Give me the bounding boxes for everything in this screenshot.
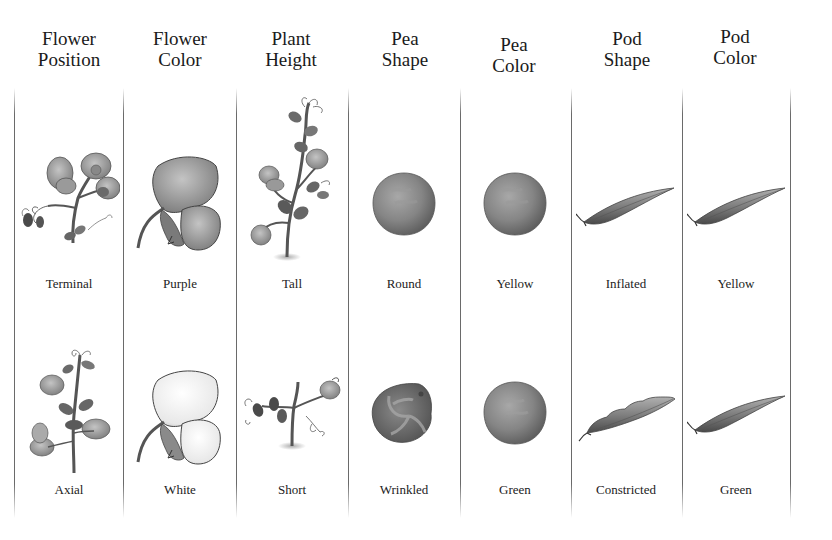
trait-label-yellow-pod: Yellow (681, 276, 791, 292)
header-line: Pod (572, 28, 682, 49)
yellow-pod-illustration (687, 186, 789, 230)
constricted-pod-illustration (577, 393, 679, 443)
trait-label-green-pod: Green (681, 482, 791, 498)
trait-label-tall: Tall (237, 276, 347, 292)
tall-plant-illustration (245, 95, 345, 265)
header-plant-height: Plant Height (236, 28, 346, 70)
trait-label-yellow-pea: Yellow (460, 276, 570, 292)
header-line: Flower (125, 28, 235, 49)
header-line: Flower (14, 28, 124, 49)
white-flower-illustration (128, 368, 230, 468)
header-pod-shape: Pod Shape (572, 28, 682, 70)
header-line: Color (680, 47, 790, 68)
column-divider (123, 88, 124, 518)
header-pea-color: Pea Color (459, 34, 569, 76)
trait-label-wrinkled: Wrinkled (349, 482, 459, 498)
header-line: Position (14, 49, 124, 70)
header-line: Pod (680, 26, 790, 47)
axial-flower-illustration (26, 345, 112, 475)
column-divider (790, 88, 791, 518)
trait-label-green-pea: Green (460, 482, 570, 498)
column-divider (14, 88, 15, 518)
trait-label-round: Round (349, 276, 459, 292)
column-divider (348, 88, 349, 518)
header-line: Plant (236, 28, 346, 49)
trait-label-inflated: Inflated (571, 276, 681, 292)
trait-label-white: White (125, 482, 235, 498)
purple-flower-illustration (128, 154, 230, 254)
header-pod-color: Pod Color (680, 26, 790, 68)
terminal-flower-illustration (18, 148, 120, 248)
trait-label-axial: Axial (14, 482, 124, 498)
header-line: Shape (350, 49, 460, 70)
column-divider (460, 88, 461, 518)
header-pea-shape: Pea Shape (350, 28, 460, 70)
header-line: Color (125, 49, 235, 70)
trait-label-purple: Purple (125, 276, 235, 292)
trait-label-constricted: Constricted (571, 482, 681, 498)
header-line: Shape (572, 49, 682, 70)
short-plant-illustration (242, 376, 344, 452)
yellow-pea-illustration (482, 171, 548, 237)
column-divider (682, 88, 683, 518)
column-divider (236, 88, 237, 518)
header-line: Pea (350, 28, 460, 49)
header-flower-color: Flower Color (125, 28, 235, 70)
header-line: Height (236, 49, 346, 70)
header-line: Color (459, 55, 569, 76)
inflated-pod-illustration (576, 186, 678, 230)
wrinkled-pea-illustration (369, 380, 435, 446)
header-line: Pea (459, 34, 569, 55)
trait-label-short: Short (237, 482, 347, 498)
round-pea-illustration (371, 171, 437, 237)
column-divider (571, 88, 572, 518)
green-pea-illustration (482, 380, 548, 446)
green-pod-illustration (687, 394, 789, 438)
header-flower-position: Flower Position (14, 28, 124, 70)
trait-label-terminal: Terminal (14, 276, 124, 292)
